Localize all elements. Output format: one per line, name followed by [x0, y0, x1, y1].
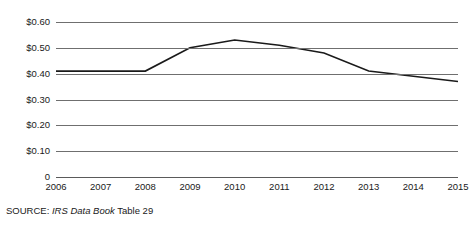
x-axis-tick-label: 2014 [393, 181, 433, 193]
plot-area [56, 22, 458, 177]
y-axis-tick-label: $0.30 [4, 95, 50, 105]
x-axis-tick-label: 2015 [438, 181, 472, 193]
gridline [56, 100, 458, 101]
y-axis-tick-label: $0.10 [4, 146, 50, 156]
x-axis-tick-label: 2009 [170, 181, 210, 193]
gridline [56, 22, 458, 23]
x-axis-tick-label: 2010 [215, 181, 255, 193]
y-axis-tick-label: $0.60 [4, 17, 50, 27]
gridline [56, 48, 458, 49]
x-axis: 2006200720082009201020112012201320142015 [56, 181, 458, 195]
x-axis-tick-label: 2012 [304, 181, 344, 193]
y-axis-tick-label: $0.40 [4, 69, 50, 79]
y-axis-tick-label: $0.50 [4, 43, 50, 53]
x-axis-tick-label: 2011 [259, 181, 299, 193]
gridline [56, 74, 458, 75]
x-axis-tick-label: 2006 [36, 181, 76, 193]
chart-figure: $0.60$0.50$0.40$0.30$0.20$0.100 20062007… [0, 0, 472, 225]
source-prefix: SOURCE: [6, 205, 49, 216]
x-axis-tick-label: 2013 [349, 181, 389, 193]
gridline [56, 151, 458, 152]
source-note: SOURCE: IRS Data Book Table 29 [6, 205, 153, 217]
x-axis-tick-label: 2008 [125, 181, 165, 193]
source-publication: IRS Data Book [52, 205, 115, 216]
gridline [56, 125, 458, 126]
x-axis-tick-label: 2007 [81, 181, 121, 193]
source-suffix: Table 29 [117, 205, 153, 216]
y-axis-tick-label: $0.20 [4, 120, 50, 130]
axis-baseline [56, 177, 458, 178]
